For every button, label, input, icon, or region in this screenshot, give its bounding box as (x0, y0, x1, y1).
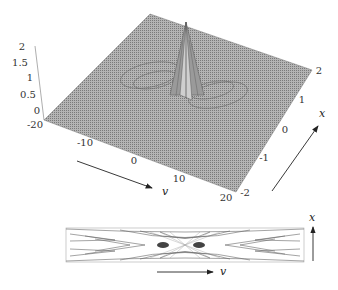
x-tick: -1 (259, 152, 269, 163)
x-axis-arrow (272, 126, 318, 191)
x-tick: 0 (282, 124, 288, 135)
contour-v-label: v (220, 265, 227, 278)
surface-plot: 2 1.5 1 0.5 0 -20 -10 0 10 20 2 1 0 -1 -… (12, 14, 326, 203)
figure: 2 1.5 1 0.5 0 -20 -10 0 10 20 2 1 0 -1 -… (0, 0, 338, 290)
contour-center-dark (157, 242, 169, 248)
contour-plot: v x (66, 211, 316, 278)
z-tick: 1 (27, 72, 33, 83)
v-axis-label: v (162, 185, 169, 198)
x-axis-label: x (319, 107, 326, 120)
x-tick: 2 (316, 65, 322, 76)
v-tick: -10 (77, 137, 93, 148)
z-tick: 1.5 (12, 57, 28, 68)
v-tick: 0 (131, 155, 137, 166)
z-tick: 0 (34, 105, 40, 116)
v-tick: 20 (220, 192, 233, 203)
contour-center-dark (193, 242, 205, 248)
surface-mesh (44, 14, 312, 192)
contour-x-label: x (309, 211, 316, 224)
z-tick: 0.5 (20, 89, 36, 100)
x-tick: 1 (299, 94, 305, 105)
z-tick: 2 (19, 41, 25, 52)
v-tick: -20 (27, 119, 43, 130)
x-tick: -2 (240, 187, 250, 198)
v-axis-arrow (77, 161, 152, 188)
v-tick: 10 (173, 173, 186, 184)
